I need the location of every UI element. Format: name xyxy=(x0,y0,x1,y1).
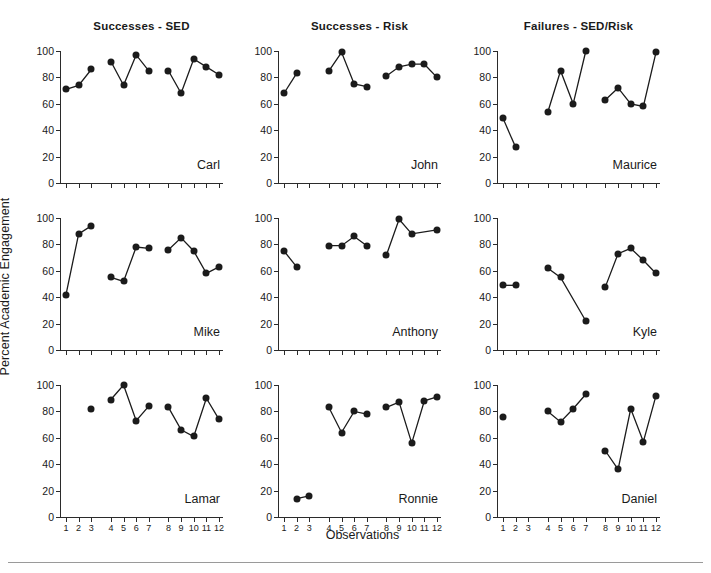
data-point xyxy=(88,222,95,229)
y-tick-label: 0 xyxy=(245,177,272,189)
y-tick-label: 20 xyxy=(245,318,272,330)
x-tick-label: 6 xyxy=(352,523,357,533)
y-tick xyxy=(274,464,279,465)
x-axis-line xyxy=(60,183,223,184)
data-point xyxy=(203,63,210,70)
x-tick xyxy=(342,351,343,355)
y-tick-label: 80 xyxy=(464,71,491,83)
x-tick-label: 11 xyxy=(639,523,648,533)
panel-lamar: 020406080100123456789101112Lamar xyxy=(60,379,223,517)
y-tick-label: 60 xyxy=(464,432,491,444)
x-tick xyxy=(297,351,298,355)
y-tick xyxy=(493,130,498,131)
data-point xyxy=(120,382,127,389)
x-tick xyxy=(548,518,549,522)
y-tick-label: 100 xyxy=(245,212,272,224)
data-point xyxy=(421,397,428,404)
data-point xyxy=(145,403,152,410)
x-tick xyxy=(503,184,504,188)
y-tick-label: 80 xyxy=(27,238,54,250)
x-tick xyxy=(643,518,644,522)
y-tick xyxy=(56,438,61,439)
y-tick-label: 40 xyxy=(245,458,272,470)
data-point xyxy=(338,242,345,249)
x-tick-label: 9 xyxy=(616,523,621,533)
x-tick-label: 5 xyxy=(121,523,126,533)
participant-name: Lamar xyxy=(60,492,220,506)
x-tick xyxy=(618,518,619,522)
participant-name: Anthony xyxy=(278,325,438,339)
y-tick xyxy=(56,464,61,465)
x-tick xyxy=(437,351,438,355)
x-tick xyxy=(309,518,310,522)
x-tick-label: 5 xyxy=(339,523,344,533)
x-tick xyxy=(424,184,425,188)
y-tick-label: 100 xyxy=(464,45,491,57)
data-point xyxy=(582,48,589,55)
x-tick xyxy=(631,184,632,188)
y-tick-label: 0 xyxy=(27,511,54,523)
x-tick-label: 4 xyxy=(108,523,113,533)
x-tick xyxy=(618,184,619,188)
x-tick-label: 4 xyxy=(326,523,331,533)
data-point xyxy=(602,96,609,103)
x-tick xyxy=(66,351,67,355)
x-tick xyxy=(605,518,606,522)
x-tick xyxy=(399,184,400,188)
x-tick xyxy=(136,518,137,522)
participant-name: Daniel xyxy=(497,492,657,506)
data-point xyxy=(133,417,140,424)
participant-name: Carl xyxy=(60,158,220,172)
x-tick xyxy=(149,518,150,522)
data-point xyxy=(351,233,358,240)
y-tick xyxy=(274,244,279,245)
y-tick xyxy=(493,271,498,272)
y-tick xyxy=(493,51,498,52)
x-tick xyxy=(297,518,298,522)
data-point xyxy=(107,274,114,281)
y-tick-label: 60 xyxy=(245,432,272,444)
x-axis-line xyxy=(278,183,441,184)
data-point xyxy=(557,274,564,281)
x-tick xyxy=(124,184,125,188)
x-tick-label: 9 xyxy=(179,523,184,533)
data-point xyxy=(293,263,300,270)
y-tick xyxy=(493,183,498,184)
x-tick xyxy=(168,351,169,355)
y-tick xyxy=(56,271,61,272)
x-tick-label: 12 xyxy=(432,523,442,533)
data-point xyxy=(190,248,197,255)
participant-name: Kyle xyxy=(497,325,657,339)
x-tick xyxy=(528,518,529,522)
data-point xyxy=(325,67,332,74)
y-tick xyxy=(493,77,498,78)
y-tick xyxy=(56,244,61,245)
data-point xyxy=(615,466,622,473)
x-tick xyxy=(284,518,285,522)
y-tick xyxy=(493,438,498,439)
data-point xyxy=(615,84,622,91)
data-point xyxy=(434,226,441,233)
data-point xyxy=(216,416,223,423)
data-point xyxy=(653,49,660,56)
x-axis-line xyxy=(497,350,660,351)
data-point xyxy=(396,399,403,406)
x-tick xyxy=(367,351,368,355)
y-tick-label: 20 xyxy=(245,485,272,497)
data-point xyxy=(178,90,185,97)
y-tick-label: 100 xyxy=(245,379,272,391)
x-tick-label: 5 xyxy=(558,523,563,533)
x-tick xyxy=(309,184,310,188)
x-tick xyxy=(386,351,387,355)
data-point xyxy=(653,392,660,399)
x-tick xyxy=(297,184,298,188)
data-point xyxy=(178,426,185,433)
x-tick xyxy=(111,184,112,188)
data-point xyxy=(434,393,441,400)
y-tick xyxy=(56,517,61,518)
x-tick-label: 6 xyxy=(571,523,576,533)
y-tick xyxy=(56,218,61,219)
data-point xyxy=(408,61,415,68)
data-point xyxy=(627,100,634,107)
x-axis-line xyxy=(497,183,660,184)
